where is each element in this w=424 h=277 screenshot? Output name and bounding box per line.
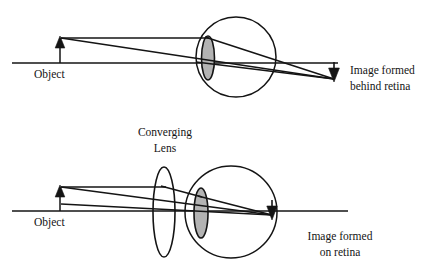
converging-lens-label-line2: Lens <box>154 142 177 154</box>
image-label-bottom-line2: on retina <box>320 246 361 258</box>
ray-diagram-figure: Object Image formed behind retina Conver… <box>0 0 424 277</box>
converging-lens-label-line1: Converging <box>138 126 192 139</box>
object-label-top: Object <box>34 68 65 81</box>
image-label-top-line1: Image formed <box>350 64 415 77</box>
image-label-bottom-line1: Image formed <box>308 230 373 243</box>
image-label-top-line2: behind retina <box>350 80 410 92</box>
object-label-bottom: Object <box>34 216 65 229</box>
eye-lens-top <box>202 36 215 80</box>
